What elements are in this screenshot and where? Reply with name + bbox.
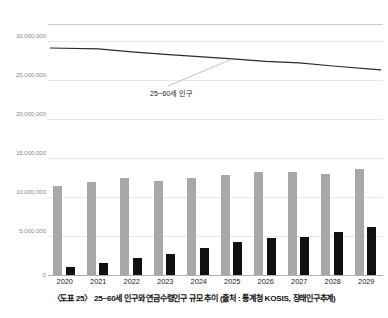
bar-group xyxy=(82,0,116,275)
x-axis-tick-label: 2022 xyxy=(115,277,149,286)
y-axis-tick-label: 5,000,000 xyxy=(3,227,46,234)
x-axis-tick-label: 2026 xyxy=(249,277,283,286)
bar-group xyxy=(316,0,350,275)
bar-black xyxy=(300,237,309,275)
bar-group xyxy=(182,0,216,275)
bar-black xyxy=(166,254,175,275)
y-axis-tick-label: 15,000,000 xyxy=(3,149,46,156)
x-axis-tick-label: 2021 xyxy=(82,277,116,286)
bar-group xyxy=(216,0,250,275)
bar-gray xyxy=(221,175,230,275)
x-axis-tick-label: 2025 xyxy=(216,277,250,286)
bar-gray xyxy=(187,178,196,276)
x-axis-tick-label: 2020 xyxy=(48,277,82,286)
bar-gray xyxy=(288,172,297,275)
x-axis-tick-labels: 2020202120222023202420252026202720282029 xyxy=(48,276,383,290)
bar-black xyxy=(133,258,142,275)
bar-group xyxy=(249,0,283,275)
x-axis-tick-label: 2028 xyxy=(316,277,350,286)
x-axis-tick-label: 2027 xyxy=(283,277,317,286)
bar-series-layer xyxy=(48,0,383,275)
y-axis-tick-label: 20,000,000 xyxy=(3,110,46,117)
y-axis-zero-label: 0 xyxy=(3,271,46,278)
figure-caption: 〈도표 25〉 25~60세 인구와 연금수령인구 규모 추이 (출처 : 통계… xyxy=(0,292,388,303)
x-axis-tick-label: 2023 xyxy=(149,277,183,286)
bar-gray xyxy=(254,172,263,275)
bar-group xyxy=(48,0,82,275)
bar-black xyxy=(66,267,75,275)
bar-black xyxy=(334,232,343,275)
x-axis-tick-label: 2024 xyxy=(182,277,216,286)
bar-black xyxy=(233,242,242,275)
bar-gray xyxy=(120,178,129,275)
bar-black xyxy=(200,248,209,275)
y-axis-tick-label: 25,000,000 xyxy=(3,71,46,78)
bar-black xyxy=(267,238,276,275)
bar-group xyxy=(350,0,384,275)
annotation-label: 25~60세 인구 xyxy=(150,88,193,98)
bar-group xyxy=(149,0,183,275)
bar-gray xyxy=(321,174,330,275)
y-axis-tick-label: 30,000,000 xyxy=(3,32,46,39)
bar-gray xyxy=(53,186,62,275)
bar-black xyxy=(367,227,376,275)
chart-figure: 5,000,00010,000,00015,000,00020,000,0002… xyxy=(0,0,388,318)
y-axis-tick-label: 10,000,000 xyxy=(3,188,46,195)
bar-gray xyxy=(87,182,96,275)
bar-group xyxy=(115,0,149,275)
bar-black xyxy=(99,263,108,275)
bar-gray xyxy=(154,181,163,275)
bar-gray xyxy=(355,169,364,275)
bar-group xyxy=(283,0,317,275)
x-axis-tick-label: 2029 xyxy=(350,277,384,286)
